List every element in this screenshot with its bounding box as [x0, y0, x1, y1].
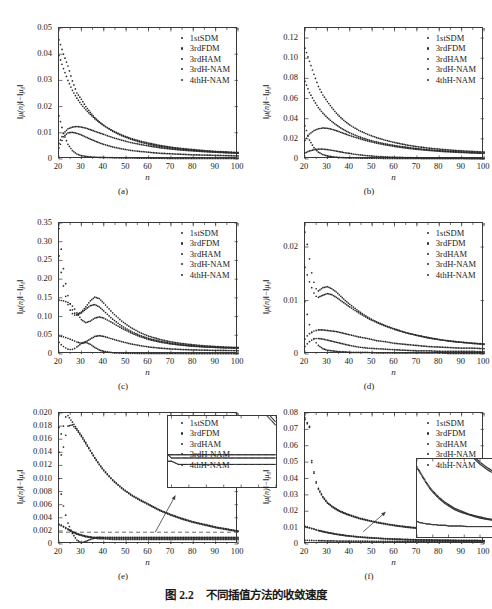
- legend-marker-dot: [181, 263, 183, 265]
- x-tick-label: 80: [180, 547, 204, 556]
- legend-item-1stsdm[interactable]: 1stSDM: [425, 228, 476, 238]
- legend-item-4thh-nam[interactable]: 4thH-NAM: [425, 460, 476, 470]
- x-tick-label: 50: [113, 357, 137, 366]
- legend-item-3rdfdm[interactable]: 3rdFDM: [425, 428, 476, 438]
- legend-label: 3rdH-NAM: [190, 259, 230, 269]
- legend-item-4thh-nam[interactable]: 4thH-NAM: [179, 75, 230, 85]
- legend-label: 3rdFDM: [190, 428, 220, 438]
- panel-e: 1stSDM3rdFDM3rdHAM3rdH-NAM4thH-NAM00.002…: [0, 385, 246, 580]
- legend-marker-dot: [427, 37, 429, 39]
- legend-item-3rdfdm[interactable]: 3rdFDM: [425, 43, 476, 53]
- inset-plot-f: [416, 458, 492, 538]
- x-tick-label: 80: [180, 162, 204, 171]
- legend-item-4thh-nam[interactable]: 4thH-NAM: [179, 460, 230, 470]
- panel-label: (e): [0, 571, 246, 581]
- legend-marker-dot: [427, 242, 429, 244]
- legend-marker-dot: [427, 47, 429, 49]
- legend-label: 3rdH-NAM: [436, 64, 476, 74]
- legend-item-3rdh-nam[interactable]: 3rdH-NAM: [179, 449, 230, 459]
- legend-item-3rdh-nam[interactable]: 3rdH-NAM: [425, 449, 476, 459]
- legend-label: 3rdFDM: [436, 43, 466, 53]
- caption-number: 2.2: [179, 589, 193, 601]
- y-tick-label: 0.05: [0, 330, 52, 339]
- legend-item-1stsdm[interactable]: 1stSDM: [179, 228, 230, 238]
- legend: 1stSDM3rdFDM3rdHAM3rdH-NAM4thH-NAM: [425, 33, 476, 85]
- plot-area-c: 1stSDM3rdFDM3rdHAM3rdH-NAM4thH-NAM: [58, 222, 237, 353]
- y-tick-label: 0.02: [0, 102, 52, 111]
- legend-item-3rdh-nam[interactable]: 3rdH-NAM: [179, 259, 230, 269]
- x-tick-label: 90: [203, 357, 227, 366]
- legend-marker-dot: [181, 37, 183, 39]
- y-axis-label: ‖μ(n)‖−‖μ₀‖: [262, 279, 271, 314]
- series-3rdh-nam: [304, 148, 485, 159]
- legend-item-3rdh-nam[interactable]: 3rdH-NAM: [425, 64, 476, 74]
- legend-marker-dot: [181, 464, 183, 466]
- caption-prefix: 图: [165, 588, 176, 602]
- y-tick-label: 0.04: [246, 474, 298, 483]
- x-tick-label: 40: [91, 547, 115, 556]
- x-tick-label: 100: [471, 162, 492, 171]
- plot-area-f: 1stSDM3rdFDM3rdHAM3rdH-NAM4thH-NAM: [304, 412, 483, 543]
- y-tick-label: 0.020: [0, 408, 52, 417]
- legend-item-3rdfdm[interactable]: 3rdFDM: [179, 428, 230, 438]
- x-tick-label: 20: [292, 357, 316, 366]
- legend-item-3rdham[interactable]: 3rdHAM: [425, 249, 476, 259]
- legend-item-3rdfdm[interactable]: 3rdFDM: [179, 238, 230, 248]
- legend-item-3rdham[interactable]: 3rdHAM: [179, 54, 230, 64]
- y-tick-label: 0.20: [0, 274, 52, 283]
- legend-item-3rdham[interactable]: 3rdHAM: [425, 54, 476, 64]
- legend-item-1stsdm[interactable]: 1stSDM: [179, 33, 230, 43]
- y-tick-label: 0.018: [0, 421, 52, 430]
- legend-item-1stsdm[interactable]: 1stSDM: [425, 418, 476, 428]
- legend-item-1stsdm[interactable]: 1stSDM: [425, 33, 476, 43]
- legend-item-3rdfdm[interactable]: 3rdFDM: [179, 43, 230, 53]
- legend: 1stSDM3rdFDM3rdHAM3rdH-NAM4thH-NAM: [179, 418, 230, 470]
- legend-marker-dot: [181, 253, 183, 255]
- legend-label: 1stSDM: [190, 228, 218, 238]
- y-tick-label: 0.03: [246, 490, 298, 499]
- legend-label: 3rdFDM: [190, 238, 220, 248]
- legend-label: 3rdHAM: [190, 54, 221, 64]
- legend-marker-dot: [427, 464, 429, 466]
- legend-marker-dot: [181, 58, 183, 60]
- y-tick-label: 0.010: [0, 474, 52, 483]
- y-tick-label: 0.02: [246, 134, 298, 143]
- legend-marker-dot: [181, 274, 183, 276]
- x-tick-label: 30: [68, 357, 92, 366]
- legend-marker-dot: [181, 422, 183, 424]
- legend-item-3rdham[interactable]: 3rdHAM: [425, 439, 476, 449]
- x-tick-label: 70: [404, 162, 428, 171]
- x-axis-label: n: [58, 557, 237, 567]
- legend-label: 4thH-NAM: [190, 75, 230, 85]
- x-tick-label: 20: [46, 357, 70, 366]
- legend-marker-dot: [427, 68, 429, 70]
- x-tick-label: 20: [292, 162, 316, 171]
- panel-a: 1stSDM3rdFDM3rdHAM3rdH-NAM4thH-NAM00.010…: [0, 0, 246, 195]
- legend-item-3rdham[interactable]: 3rdHAM: [179, 249, 230, 259]
- inset-pointer-arrow: [155, 496, 175, 533]
- inset-canvas: [417, 459, 492, 537]
- y-tick-label: 0: [246, 539, 298, 548]
- legend-label: 3rdHAM: [190, 249, 221, 259]
- x-tick-label: 70: [404, 357, 428, 366]
- plot-area-d: 1stSDM3rdFDM3rdHAM3rdH-NAM4thH-NAM: [304, 222, 483, 353]
- legend-item-4thh-nam[interactable]: 4thH-NAM: [425, 270, 476, 280]
- legend-label: 3rdFDM: [190, 43, 220, 53]
- y-tick-label: 0.08: [246, 73, 298, 82]
- legend-item-1stsdm[interactable]: 1stSDM: [179, 418, 230, 428]
- legend-marker-dot: [181, 242, 183, 244]
- legend-item-3rdh-nam[interactable]: 3rdH-NAM: [425, 259, 476, 269]
- legend-item-3rdfdm[interactable]: 3rdFDM: [425, 238, 476, 248]
- legend-label: 1stSDM: [436, 228, 464, 238]
- figure-caption: 图2.2不同插值方法的收敛速度: [0, 586, 492, 602]
- legend-marker-dot: [427, 443, 429, 445]
- legend-label: 4thH-NAM: [190, 460, 230, 470]
- legend-marker-dot: [427, 422, 429, 424]
- legend-item-3rdh-nam[interactable]: 3rdH-NAM: [179, 64, 230, 74]
- legend-item-4thh-nam[interactable]: 4thH-NAM: [425, 75, 476, 85]
- legend-marker-dot: [181, 432, 183, 434]
- y-tick-label: 0.01: [246, 296, 298, 305]
- legend-item-4thh-nam[interactable]: 4thH-NAM: [179, 270, 230, 280]
- legend-item-3rdham[interactable]: 3rdHAM: [179, 439, 230, 449]
- y-tick-label: 0.12: [246, 33, 298, 42]
